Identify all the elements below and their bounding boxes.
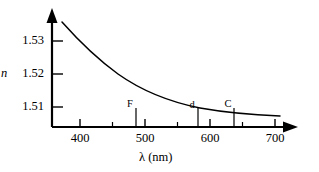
spectral-line-label-C: C	[222, 99, 234, 110]
dispersion-curve-figure: 1.53 1.52 1.51 n 400 500 600 700 λ (nm) …	[0, 0, 319, 172]
x-axis-label: λ (nm)	[139, 151, 172, 164]
x-tick-label-500: 500	[128, 132, 162, 145]
spectral-line-label-d: d	[186, 100, 198, 111]
x-axis-arrowhead	[283, 122, 298, 133]
y-tick-label-1-52: 1.52	[10, 67, 44, 80]
dispersion-curve-path	[62, 22, 280, 116]
plot-canvas	[0, 0, 319, 172]
y-tick-label-1-53: 1.53	[10, 34, 44, 47]
y-tick-label-1-51: 1.51	[10, 100, 44, 113]
y-axis-label: n	[1, 67, 7, 80]
x-tick-label-600: 600	[193, 132, 227, 145]
spectral-line-label-F: F	[124, 99, 136, 110]
x-tick-label-400: 400	[63, 132, 97, 145]
x-tick-label-700: 700	[258, 132, 292, 145]
y-axis-arrowhead	[47, 8, 58, 23]
